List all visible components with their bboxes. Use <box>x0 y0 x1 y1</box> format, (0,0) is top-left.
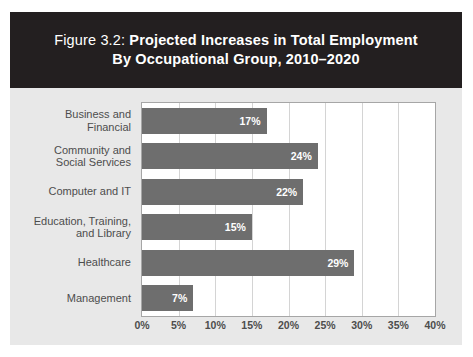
bar-row: 15% <box>142 214 435 240</box>
x-tick-label: 0% <box>134 319 149 331</box>
x-tick-label: 25% <box>315 319 336 331</box>
category-label: Computer and IT <box>9 185 131 198</box>
bar-row: 7% <box>142 285 435 311</box>
figure-title-line-1: Figure 3.2: Projected Increases in Total… <box>54 31 418 50</box>
bar[interactable]: 29% <box>142 250 354 276</box>
category-label-line: Computer and IT <box>9 185 131 198</box>
bar-value-label: 24% <box>291 150 318 162</box>
x-tick-label: 5% <box>171 319 186 331</box>
figure-title-line-2: By Occupational Group, 2010–2020 <box>112 50 359 69</box>
figure-container: Figure 3.2: Projected Increases in Total… <box>10 12 462 345</box>
category-label-line: Community and <box>9 144 131 157</box>
x-tick-label: 30% <box>351 319 372 331</box>
category-label-line: Healthcare <box>9 256 131 269</box>
category-label: Business andFinancial <box>9 108 131 133</box>
bar[interactable]: 7% <box>142 285 193 311</box>
x-tick-label: 15% <box>241 319 262 331</box>
gridline <box>325 103 326 316</box>
bar-value-label: 7% <box>172 292 193 304</box>
category-label-line: Financial <box>9 121 131 134</box>
gridline <box>215 103 216 316</box>
bar[interactable]: 15% <box>142 214 252 240</box>
bar[interactable]: 24% <box>142 143 318 169</box>
category-label-line: Business and <box>9 108 131 121</box>
x-axis-tick-labels: 0%5%10%15%20%25%30%35%40% <box>141 319 436 339</box>
x-tick-label: 20% <box>278 319 299 331</box>
x-tick-label: 35% <box>388 319 409 331</box>
category-label: Education, Training,and Library <box>9 215 131 240</box>
bar-row: 24% <box>142 143 435 169</box>
figure-title-band: Figure 3.2: Projected Increases in Total… <box>10 12 462 88</box>
bar-row: 29% <box>142 250 435 276</box>
category-axis-labels: Business andFinancialCommunity andSocial… <box>10 102 138 317</box>
bar-value-label: 15% <box>225 221 252 233</box>
chart-area: Business andFinancialCommunity andSocial… <box>10 88 462 345</box>
bar-row: 22% <box>142 179 435 205</box>
bar-value-label: 22% <box>276 186 303 198</box>
figure-title-main: Projected Increases in Total Employment <box>125 32 418 48</box>
bar-value-label: 17% <box>240 115 267 127</box>
gridline <box>289 103 290 316</box>
plot-box: 17%24%22%15%29%7% <box>141 102 436 317</box>
category-label: Community andSocial Services <box>9 144 131 169</box>
x-tick-label: 40% <box>424 319 445 331</box>
gridline <box>362 103 363 316</box>
bar-row: 17% <box>142 108 435 134</box>
category-label: Healthcare <box>9 256 131 269</box>
category-label: Management <box>9 292 131 305</box>
bar[interactable]: 17% <box>142 108 267 134</box>
category-label-line: Education, Training, <box>9 215 131 228</box>
gridline <box>398 103 399 316</box>
figure-number-label: Figure 3.2: <box>54 32 125 48</box>
category-label-line: Social Services <box>9 156 131 169</box>
bar[interactable]: 22% <box>142 179 303 205</box>
x-tick-label: 10% <box>205 319 226 331</box>
gridline <box>252 103 253 316</box>
category-label-line: and Library <box>9 227 131 240</box>
category-label-line: Management <box>9 292 131 305</box>
bar-value-label: 29% <box>327 257 354 269</box>
gridline <box>179 103 180 316</box>
